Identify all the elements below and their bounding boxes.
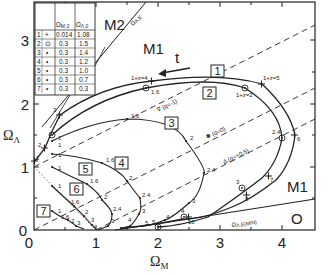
region-o: O <box>291 210 303 227</box>
label-z4: 1+z=4 <box>131 75 148 81</box>
svg-text:0.3: 0.3 <box>79 85 88 92</box>
y-tick-1: 1 <box>21 159 29 176</box>
region-m2: M2 <box>104 16 125 33</box>
point-labels: 123 1111 11 1.622.4345 1.622.434 1.622.4… <box>36 89 301 226</box>
y-axis-label: ΩΛ <box>3 128 20 145</box>
svg-text:2: 2 <box>190 135 194 141</box>
svg-text:4: 4 <box>128 217 132 223</box>
svg-text:2: 2 <box>37 40 41 47</box>
svg-text:2: 2 <box>85 209 89 215</box>
time-arrow-icon <box>158 68 190 77</box>
region-m1-upper: M1 <box>143 40 164 57</box>
svg-text:1: 1 <box>58 165 62 171</box>
svg-text:2.4: 2.4 <box>272 129 281 135</box>
svg-text:2.4: 2.4 <box>207 167 216 173</box>
svg-text:3: 3 <box>91 217 95 223</box>
svg-text:10: 10 <box>188 219 195 225</box>
svg-text:0.3: 0.3 <box>59 58 68 65</box>
svg-text:1.6: 1.6 <box>61 214 70 220</box>
svg-text:2.4: 2.4 <box>142 192 151 198</box>
svg-text:6: 6 <box>37 76 41 83</box>
svg-text:⊙: ⊙ <box>45 40 51 47</box>
table-header-ol: ΩΛ,0 <box>76 21 89 29</box>
svg-text:3: 3 <box>77 220 81 226</box>
y-tick-3: 3 <box>21 32 29 49</box>
y-tick-0: 0 <box>19 222 27 239</box>
x-tick-1: 1 <box>92 234 100 251</box>
svg-text:2: 2 <box>104 194 108 200</box>
svg-text:4: 4 <box>166 214 170 220</box>
svg-text:3: 3 <box>236 179 240 185</box>
svg-text:7: 7 <box>41 205 47 217</box>
table-row: 1+0.0141.08 <box>37 31 90 38</box>
chart-root: 0 1 2 3 4 0 1 2 3 ΩM ΩΛ <box>0 0 329 274</box>
svg-text:+: + <box>45 31 49 38</box>
svg-text:3: 3 <box>192 198 196 204</box>
svg-text:1: 1 <box>215 65 221 77</box>
svg-text:0.3: 0.3 <box>59 85 68 92</box>
x-tick-2: 2 <box>154 234 162 251</box>
svg-text:1.4: 1.4 <box>79 49 88 56</box>
svg-text:6: 6 <box>297 136 301 142</box>
svg-text:2: 2 <box>71 218 75 224</box>
y-tick-2: 2 <box>21 96 29 113</box>
svg-text:3: 3 <box>169 117 175 129</box>
svg-text:1: 1 <box>58 183 62 189</box>
svg-text:1: 1 <box>58 135 62 141</box>
q-half-label: Δ (q=+0.5) <box>222 148 250 165</box>
omega-le-label: ΩΛ,E <box>129 13 143 28</box>
x-axis-label: ΩM <box>150 254 168 271</box>
svg-text:0.014: 0.014 <box>56 31 73 38</box>
label-z5: 1+z=5 <box>263 75 280 81</box>
time-label: t <box>175 49 180 66</box>
region-m1-lower: M1 <box>287 178 308 195</box>
svg-text:1.6: 1.6 <box>151 89 160 95</box>
svg-text:1.2: 1.2 <box>79 58 88 65</box>
svg-text:1.0: 1.0 <box>79 67 88 74</box>
svg-text:1.08: 1.08 <box>77 31 90 38</box>
svg-text:3: 3 <box>142 208 146 214</box>
svg-text:0.3: 0.3 <box>59 49 68 56</box>
svg-text:1.6: 1.6 <box>71 199 80 205</box>
curve-5 <box>52 167 112 230</box>
svg-text:0.3: 0.3 <box>59 40 68 47</box>
x-tick-3: 3 <box>216 234 224 251</box>
svg-text:0.7: 0.7 <box>79 76 88 83</box>
legend-table: ΩM,0 ΩΛ,0 1+0.0141.08 2⊙0.31.5 3•0.31.4 … <box>35 3 95 95</box>
table-header-om: ΩM,0 <box>56 21 69 29</box>
svg-text:2.4: 2.4 <box>113 206 122 212</box>
q-minus1-label: ∇ (q=-1) <box>155 98 178 113</box>
svg-text:1: 1 <box>58 142 62 148</box>
svg-text:2: 2 <box>38 142 42 148</box>
svg-text:6: 6 <box>74 183 80 195</box>
svg-text:0.3: 0.3 <box>59 76 68 83</box>
svg-text:1.5: 1.5 <box>79 40 88 47</box>
omega-le-min-label: ΩΛ,E(MIN) <box>231 218 257 229</box>
x-tick-4: 4 <box>278 234 286 251</box>
svg-text:1.6: 1.6 <box>106 157 115 163</box>
table-row: 2⊙0.31.5 <box>37 40 88 47</box>
svg-text:1: 1 <box>37 31 41 38</box>
svg-text:5: 5 <box>83 163 89 175</box>
svg-text:7: 7 <box>37 85 41 92</box>
label-z2: 1+z=2 <box>236 92 253 98</box>
svg-text:4: 4 <box>119 157 125 169</box>
svg-text:3: 3 <box>37 49 41 56</box>
svg-text:4: 4 <box>37 58 41 65</box>
svg-text:1.6: 1.6 <box>90 178 99 184</box>
svg-text:5: 5 <box>37 67 41 74</box>
leader-line <box>95 47 105 66</box>
svg-text:0.3: 0.3 <box>59 67 68 74</box>
svg-text:4: 4 <box>181 208 185 214</box>
svg-text:2: 2 <box>207 87 213 99</box>
svg-text:1.6: 1.6 <box>131 113 140 119</box>
